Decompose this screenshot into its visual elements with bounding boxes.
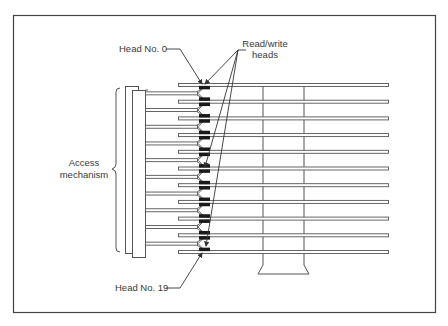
rw-head (199, 219, 210, 223)
access-arm (146, 236, 211, 251)
access-arm (146, 136, 211, 151)
access-carriage (126, 87, 149, 258)
access-arm (146, 203, 211, 218)
head-19-label: Head No. 19 (115, 282, 168, 293)
rw-head (199, 164, 210, 168)
access-label-line1: Access (69, 157, 100, 168)
access-brace (112, 88, 120, 252)
access-arm (146, 219, 211, 234)
rw-head (199, 248, 210, 252)
access-arm (146, 186, 211, 201)
access-arm (146, 103, 211, 118)
access-arm (146, 119, 211, 134)
spindle (258, 86, 309, 274)
rw-head (199, 186, 210, 190)
rw-head (199, 198, 210, 202)
rw-head (199, 97, 210, 101)
access-arm (146, 169, 211, 184)
access-arm (146, 86, 211, 101)
rw-heads-label-line1: Read/write (242, 38, 287, 49)
rw-head (199, 147, 210, 151)
rw-head (199, 203, 210, 207)
rw-head (199, 86, 210, 90)
disk-platters (179, 84, 389, 254)
rw-head (199, 181, 210, 185)
rw-head (199, 214, 210, 218)
head-0-label: Head No. 0 (119, 43, 167, 54)
rw-head (199, 114, 210, 118)
rw-head (199, 236, 210, 240)
access-label-line2: mechanism (60, 169, 109, 180)
rw-head (199, 136, 210, 140)
rw-heads-leaders (205, 50, 246, 246)
rw-head (199, 119, 210, 123)
access-arm (146, 153, 211, 168)
disk-pack-diagram: Access mechanism Head No. 0 Head No. 19 … (0, 0, 448, 326)
head-0-leader (166, 49, 202, 84)
rw-heads-label-line2: heads (252, 49, 278, 60)
rw-head (199, 169, 210, 173)
rw-head (199, 103, 210, 107)
head-19-leader (166, 253, 202, 288)
rw-head (199, 131, 210, 135)
